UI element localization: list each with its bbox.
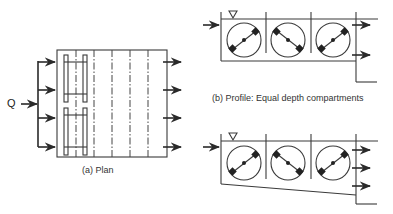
paddle-wheel-icon <box>316 23 350 57</box>
paddle-wheel-icon <box>227 146 261 180</box>
plan-caption: (a) Plan <box>82 165 114 175</box>
flow-label-q: Q <box>7 97 16 109</box>
paddle-wheel-icon <box>227 23 261 57</box>
paddle-wheel-icon <box>271 23 305 57</box>
profile-equal-depth <box>203 11 378 82</box>
water-level-icon <box>229 11 237 18</box>
plan-view <box>21 50 181 157</box>
profile-tapered-depth <box>203 133 378 204</box>
water-level-icon <box>229 133 237 140</box>
profile-caption: (b) Profile: Equal depth compartments <box>212 93 364 103</box>
diagram-canvas <box>0 0 393 214</box>
paddle-wheel-icon <box>316 146 350 180</box>
paddle-wheel-icon <box>271 146 305 180</box>
